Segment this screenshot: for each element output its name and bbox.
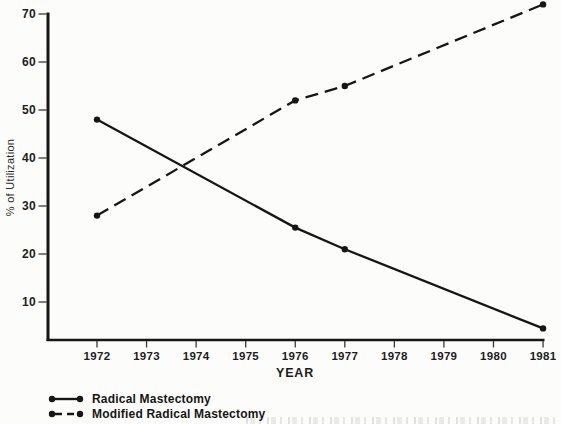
legend-item-modified-radical-mastectomy: Modified Radical Mastectomy xyxy=(48,407,265,420)
svg-text:70: 70 xyxy=(22,7,36,21)
x-axis-label: YEAR xyxy=(262,366,328,380)
svg-text:1973: 1973 xyxy=(133,350,160,362)
svg-text:20: 20 xyxy=(22,247,36,261)
svg-text:1981: 1981 xyxy=(530,350,557,362)
legend-label-radical: Radical Mastectomy xyxy=(92,392,211,406)
svg-text:30: 30 xyxy=(22,199,36,213)
svg-text:1980: 1980 xyxy=(480,350,507,362)
svg-text:1977: 1977 xyxy=(331,350,358,362)
svg-text:1978: 1978 xyxy=(381,350,408,362)
svg-text:1972: 1972 xyxy=(84,350,111,362)
svg-text:10: 10 xyxy=(22,295,36,309)
dashed-line-marker-icon xyxy=(48,409,84,419)
solid-line-marker-icon xyxy=(48,394,84,404)
svg-text:60: 60 xyxy=(22,55,36,69)
svg-text:1979: 1979 xyxy=(431,350,458,362)
legend-label-modified-radical: Modified Radical Mastectomy xyxy=(92,407,265,421)
mastectomy-utilization-figure: 1020304050607019721973197419751976197719… xyxy=(0,0,561,424)
svg-text:1976: 1976 xyxy=(282,350,309,362)
svg-text:50: 50 xyxy=(22,103,36,117)
legend: Radical Mastectomy Modified Radical Mast… xyxy=(48,392,265,420)
svg-text:1975: 1975 xyxy=(232,350,259,362)
svg-text:40: 40 xyxy=(22,151,36,165)
y-axis-label: % of Utilization xyxy=(4,118,19,238)
svg-text:1974: 1974 xyxy=(183,350,210,362)
cutoff-caption-remnant xyxy=(246,417,558,424)
legend-item-radical-mastectomy: Radical Mastectomy xyxy=(48,392,265,405)
line-chart: 1020304050607019721973197419751976197719… xyxy=(0,0,561,424)
